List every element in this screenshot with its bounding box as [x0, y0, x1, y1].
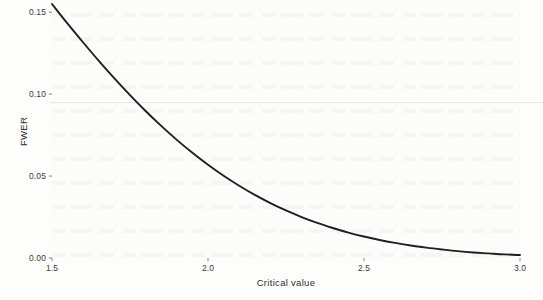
x-tick-label: 3.0 [500, 263, 540, 273]
y-tick-label: 0.15 [12, 7, 46, 17]
chart-screenshot: 0.000.050.100.151.52.02.53.0 FWER Critic… [0, 0, 543, 300]
y-tick-label: 0.05 [12, 171, 46, 181]
chart-canvas [0, 0, 543, 300]
fwer-curve [52, 4, 520, 255]
axis-tick-marks [49, 12, 520, 261]
y-axis-title: FWER [18, 102, 29, 162]
y-tick-label: 0.00 [12, 253, 46, 263]
x-axis-title: Critical value [52, 277, 520, 288]
x-tick-label: 2.5 [344, 263, 384, 273]
y-tick-label: 0.10 [12, 89, 46, 99]
x-tick-label: 2.0 [188, 263, 228, 273]
x-tick-label: 1.5 [32, 263, 72, 273]
